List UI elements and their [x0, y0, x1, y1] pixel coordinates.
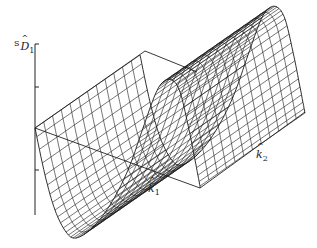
k2-axis-label-symbol: k: [256, 149, 263, 160]
k1-axis-label: k1: [148, 183, 160, 197]
k1-axis-label-subscript: 1: [155, 188, 160, 197]
k2-axis-label: k2: [256, 149, 268, 163]
z-axis-label: SD1: [14, 40, 34, 55]
surface-plot: [0, 0, 317, 248]
z-axis-label-prefix: S: [14, 39, 19, 48]
z-axis-label-subscript: 1: [29, 46, 34, 55]
z-axis-label-symbol: D: [20, 41, 29, 52]
k1-axis-label-symbol: k: [148, 183, 155, 194]
k2-axis-label-subscript: 2: [263, 154, 268, 163]
surface-mesh: [35, 6, 305, 238]
